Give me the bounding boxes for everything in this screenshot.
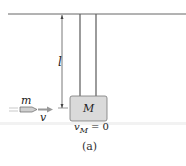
figure-caption: (a) bbox=[82, 141, 97, 152]
bullet-mass-label: m bbox=[21, 95, 31, 106]
block-mass-label: M bbox=[83, 103, 94, 114]
bullet-velocity-label: v bbox=[40, 112, 46, 123]
block-velocity-subscript: M bbox=[80, 126, 88, 135]
block-velocity-value: = 0 bbox=[88, 121, 109, 132]
block-velocity-label: vM = 0 bbox=[74, 122, 109, 135]
length-label: l bbox=[58, 56, 62, 68]
bullet-m bbox=[9, 107, 37, 112]
